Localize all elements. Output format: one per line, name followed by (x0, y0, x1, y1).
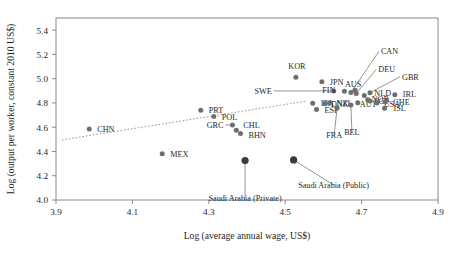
data-point-prt (198, 108, 203, 113)
data-point-saudi-arabia-public- (290, 156, 297, 163)
point-label-saudi-arabia-public-: Saudi Arabia (Public) (298, 181, 369, 190)
point-label-saudi-arabia-private-: Saudi Arabia (Private) (208, 194, 281, 203)
y-tick-label-0: 4.0 (37, 195, 49, 205)
data-point-fin (342, 89, 347, 94)
y-tick-label-5: 5.0 (37, 74, 49, 84)
scatter-chart-figure: 3.94.14.34.54.74.94.04.24.44.64.85.05.25… (0, 0, 469, 254)
data-point-esp (314, 107, 319, 112)
point-label-fin: FIN (322, 86, 335, 95)
data-point-kor (293, 75, 298, 80)
data-point-fra (335, 105, 340, 110)
point-label-chn: CHN (97, 125, 114, 134)
x-tick-label-2: 4.3 (203, 207, 215, 217)
x-tick-label-4: 4.7 (356, 207, 368, 217)
data-point-chl (234, 128, 239, 133)
chart-canvas: 3.94.14.34.54.74.94.04.24.44.64.85.05.25… (0, 0, 469, 254)
y-tick-label-2: 4.4 (37, 147, 49, 157)
point-label-kor: KOR (288, 62, 306, 71)
trend-line (62, 101, 306, 140)
data-point-isl (382, 106, 387, 111)
data-point-bhn (238, 131, 243, 136)
x-axis-title: Log (average annual wage, US$) (184, 230, 311, 242)
point-label-bhn: BHN (249, 131, 266, 140)
data-point-pol (211, 114, 216, 119)
data-point-usa (374, 100, 379, 105)
y-tick-label-6: 5.2 (37, 50, 49, 60)
data-point-sgp (368, 98, 373, 103)
data-point-nld (362, 93, 367, 98)
point-label-deu: DEU (378, 65, 395, 74)
data-point-mex (160, 151, 165, 156)
plot-frame (56, 18, 438, 200)
data-point-irl (392, 92, 397, 97)
x-tick-label-5: 4.9 (432, 207, 444, 217)
y-tick-label-4: 4.8 (37, 98, 49, 108)
data-point-chn (87, 127, 92, 132)
y-tick-label-7: 5.4 (37, 26, 49, 36)
y-axis-title: Log (output per worker, constant 2010 US… (5, 24, 17, 194)
data-point-jpn (319, 79, 324, 84)
x-tick-label-1: 4.1 (127, 207, 139, 217)
point-label-mex: MEX (170, 150, 188, 159)
point-label-swe: SWE (254, 87, 271, 96)
point-label-fra: FRA (326, 131, 342, 140)
point-label-grc: GRC (207, 121, 224, 130)
data-point-deu (354, 91, 359, 96)
point-label-aus: AUS (345, 80, 362, 89)
data-point-bel (348, 102, 353, 107)
data-point-grc (230, 123, 235, 128)
point-label-gbr: GBR (402, 73, 419, 82)
point-label-chl: CHL (243, 121, 259, 130)
data-point-che (383, 99, 388, 104)
point-label-isl: ISL (394, 104, 406, 113)
y-tick-label-3: 4.6 (37, 123, 49, 133)
data-point-ita (310, 101, 315, 106)
point-label-can: CAN (381, 47, 398, 56)
x-tick-label-3: 4.5 (279, 207, 291, 217)
point-label-pol: POL (222, 113, 237, 122)
data-point-saudi-arabia-private- (241, 157, 248, 164)
point-label-bel: BEL (344, 128, 359, 137)
data-point-can (348, 90, 353, 95)
y-tick-label-1: 4.2 (37, 171, 49, 181)
x-tick-label-0: 3.9 (50, 207, 62, 217)
